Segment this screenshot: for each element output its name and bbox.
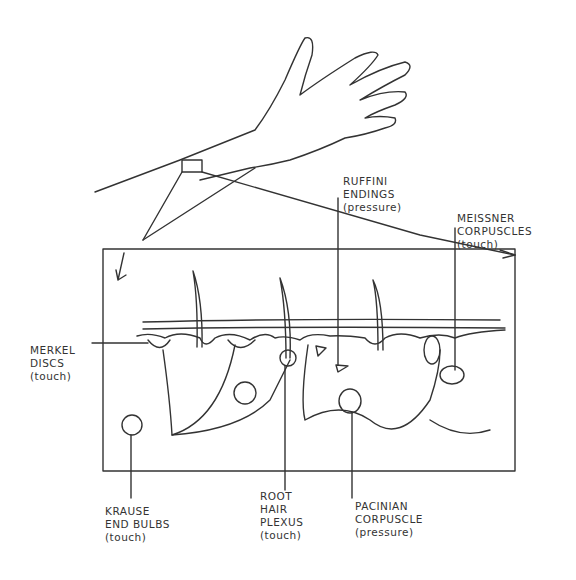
leader-lines [92,198,455,498]
label-line: (pressure) [355,526,423,539]
label-line: HAIR [260,503,303,516]
label-ruffini-endings: RUFFINI ENDINGS (pressure) [343,175,402,214]
label-line: MEISSNER [457,212,532,225]
label-line: RUFFINI [343,175,402,188]
label-line: (touch) [260,529,303,542]
label-line: PACINIAN [355,500,423,513]
label-merkel-discs: MERKEL DISCS (touch) [30,344,75,383]
label-pacinian-corpuscle: PACINIAN CORPUSCLE (pressure) [355,500,423,539]
label-line: (touch) [105,531,170,544]
label-root-hair-plexus: ROOT HAIR PLEXUS (touch) [260,490,303,542]
label-line: KRAUSE [105,505,170,518]
label-line: MERKEL [30,344,75,357]
label-line: ENDINGS [343,188,402,201]
dermal-structures [163,345,490,435]
label-line: PLEXUS [260,516,303,529]
label-line: (pressure) [343,201,402,214]
free-ending-icon [234,382,256,404]
ruffini-ending-icon [316,346,326,356]
arrow-left-icon [116,253,126,280]
diagram-canvas: MERKEL DISCS (touch) RUFFINI ENDINGS (pr… [0,0,576,580]
pacinian-corpuscle-icon [339,389,361,413]
label-line: ROOT [260,490,303,503]
meissner-corpuscle-icon [424,336,440,364]
label-line: CORPUSCLES [457,225,532,238]
label-line: DISCS [30,357,75,370]
label-line: (touch) [457,238,532,251]
label-line: (touch) [30,370,75,383]
hairs [193,271,383,358]
label-line: END BULBS [105,518,170,531]
skin-layers [137,319,505,344]
label-line: CORPUSCLE [355,513,423,526]
label-meissner-corpuscles: MEISSNER CORPUSCLES (touch) [457,212,532,251]
krause-bulb-icon [122,415,142,435]
label-krause-end-bulbs: KRAUSE END BULBS (touch) [105,505,170,544]
